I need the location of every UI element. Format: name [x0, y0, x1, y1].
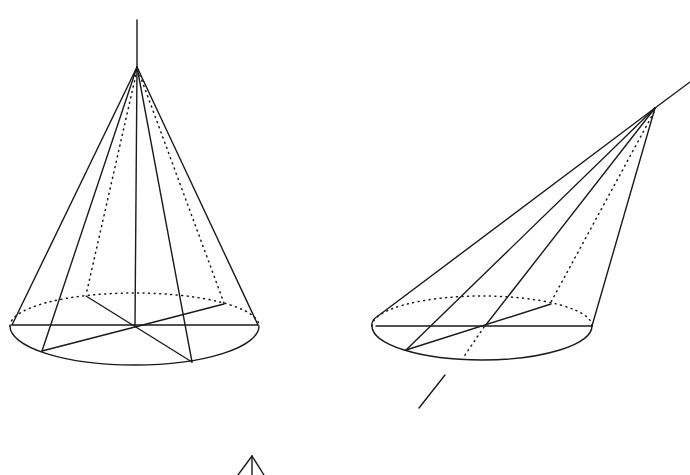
height-line [135, 67, 137, 325]
base-ellipse-back [372, 296, 592, 326]
pyramid-edge-front-left [42, 67, 137, 351]
geometry-figure [0, 0, 690, 475]
base-chord [406, 304, 551, 350]
edge-right [252, 456, 264, 475]
oblique-cone [372, 82, 690, 408]
generator-front [406, 108, 655, 350]
partial-cone [238, 456, 264, 475]
upright-cone [10, 20, 259, 365]
pyramid-edge-hidden-left [86, 70, 137, 295]
edge-left [238, 456, 252, 475]
axis-extension [655, 82, 690, 108]
silhouette-right [137, 67, 258, 325]
base-ellipse-front [10, 326, 259, 365]
ellipse-left-cap [372, 316, 378, 326]
base-chord-2 [86, 296, 192, 362]
pyramid-edge-front-right [137, 67, 192, 362]
hidden-edge [551, 112, 654, 302]
base-chord-1 [42, 304, 224, 351]
base-ellipse-front [372, 326, 592, 360]
silhouette-right [592, 108, 655, 326]
axis-extension-below [419, 375, 445, 408]
silhouette-left [12, 67, 137, 325]
pyramid-edge-hidden-right [138, 70, 224, 303]
